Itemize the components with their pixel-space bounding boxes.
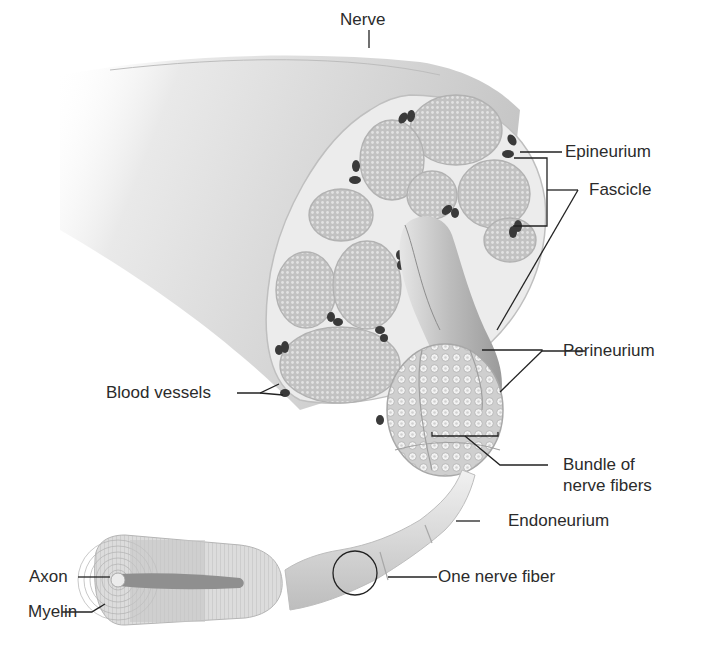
label-perineurium: Perineurium — [563, 341, 655, 361]
label-blood-vessels: Blood vessels — [106, 383, 211, 403]
nerve-fiber-strand — [285, 470, 475, 610]
axon-core — [111, 573, 125, 587]
label-bundle-of-nerve-fibers-line2: nerve fibers — [563, 476, 652, 496]
label-nerve: Nerve — [340, 10, 385, 30]
label-fascicle: Fascicle — [589, 180, 651, 200]
label-epineurium: Epineurium — [565, 142, 651, 162]
myelinated-axon — [78, 535, 282, 625]
label-bundle-of-nerve-fibers-line1: Bundle of — [563, 455, 635, 475]
nerve-diagram-illustration — [0, 0, 701, 655]
label-endoneurium: Endoneurium — [508, 511, 609, 531]
label-one-nerve-fiber: One nerve fiber — [438, 567, 555, 587]
label-axon: Axon — [29, 567, 68, 587]
label-myelin: Myelin — [28, 602, 77, 622]
